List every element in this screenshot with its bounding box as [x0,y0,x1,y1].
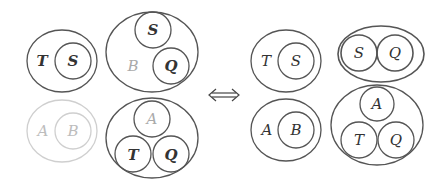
right-atq-label-t: T [354,131,365,149]
left-atq-label-t: T [127,146,140,164]
right-sq-label-s: S [354,44,364,62]
left-bsq-label-s: S [148,21,159,39]
left-bsq-label-b: B [126,57,138,75]
right-sq-outer-ellipse [338,26,424,82]
left-bsq-label-q: Q [164,57,177,75]
left-ab-label-a: A [36,122,49,140]
equivalence-arrow-icon [209,89,239,101]
left-ab-label-b: B [66,122,78,140]
right-ts-label-t: T [261,52,272,70]
right-atq-label-a: A [370,95,383,113]
left-ts-label-t: T [36,52,49,70]
left-ts-label-s: S [68,52,79,70]
right-sq-label-q: Q [389,44,401,62]
left-atq-label-q: Q [164,146,177,164]
right-atq-label-q: Q [390,131,402,149]
left-atq-label-a: A [145,110,158,128]
right-ts-label-s: S [291,52,301,70]
right-ab-label-b: B [289,121,301,139]
right-group-sq [338,26,424,82]
diagram-canvas: T S B S Q A B A T Q T S S Q A B A T Q [0,0,440,182]
right-ab-label-a: A [260,121,273,139]
